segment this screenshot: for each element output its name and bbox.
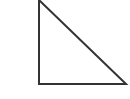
right-triangle	[39, 0, 126, 84]
diagram-canvas	[0, 0, 130, 99]
